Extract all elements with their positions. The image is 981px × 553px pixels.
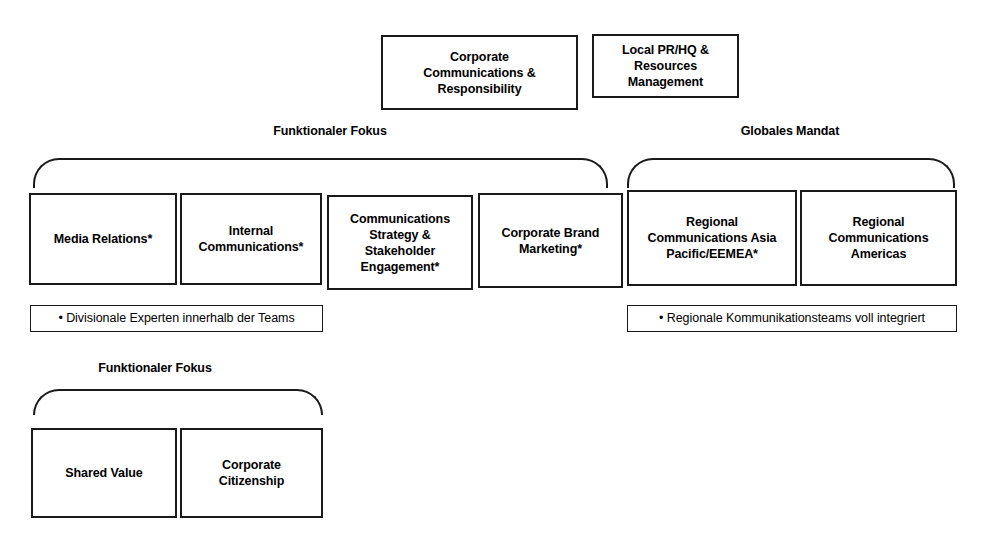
box-label: Corporate Brand Marketing* [502, 225, 600, 257]
box-internal-communications: Internal Communications* [180, 193, 322, 285]
box-label: Communications Strategy & Stakeholder En… [350, 211, 450, 275]
group-caption-globales-mandat: Globales Mandat [690, 124, 890, 138]
box-corporate-brand-marketing: Corporate Brand Marketing* [478, 193, 623, 288]
group-caption-funktionaler-fokus-bottom: Funktionaler Fokus [55, 361, 255, 375]
box-local-pr-hq-resources-management: Local PR/HQ & Resources Management [592, 34, 739, 98]
org-chart-diagram: Corporate Communications & Responsibilit… [0, 0, 981, 553]
brace-globales-mandat [627, 158, 955, 188]
box-regional-communications-americas: Regional Communications Americas [800, 190, 957, 286]
box-corporate-citizenship: Corporate Citizenship [180, 428, 323, 518]
box-media-relations: Media Relations* [29, 193, 177, 285]
group-caption-funktionaler-fokus-top: Funktionaler Fokus [230, 124, 430, 138]
box-label: Media Relations* [54, 231, 152, 247]
box-label: Corporate Citizenship [219, 457, 285, 489]
box-label: Regional Communications Asia Pacific/EEM… [648, 214, 777, 262]
box-regional-communications-asia-pacific-eemea: Regional Communications Asia Pacific/EEM… [627, 190, 797, 286]
box-corporate-communications-responsibility: Corporate Communications & Responsibilit… [381, 35, 578, 110]
note-divisionale-experten: • Divisionale Experten innerhalb der Tea… [30, 305, 323, 332]
note-regionale-kommunikationsteams: • Regionale Kommunikationsteams voll int… [627, 305, 957, 332]
brace-funktionaler-fokus-bottom [33, 389, 323, 415]
note-label: • Regionale Kommunikationsteams voll int… [659, 311, 925, 326]
note-label: • Divisionale Experten innerhalb der Tea… [58, 311, 294, 326]
box-label: Local PR/HQ & Resources Management [622, 42, 709, 90]
box-label: Corporate Communications & Responsibilit… [423, 49, 535, 97]
box-communications-strategy-stakeholder-engagement: Communications Strategy & Stakeholder En… [327, 195, 473, 290]
box-label: Shared Value [65, 465, 142, 481]
box-shared-value: Shared Value [31, 428, 177, 518]
brace-funktionaler-fokus-top [33, 158, 608, 188]
box-label: Regional Communications Americas [829, 214, 929, 262]
box-label: Internal Communications* [199, 223, 304, 255]
